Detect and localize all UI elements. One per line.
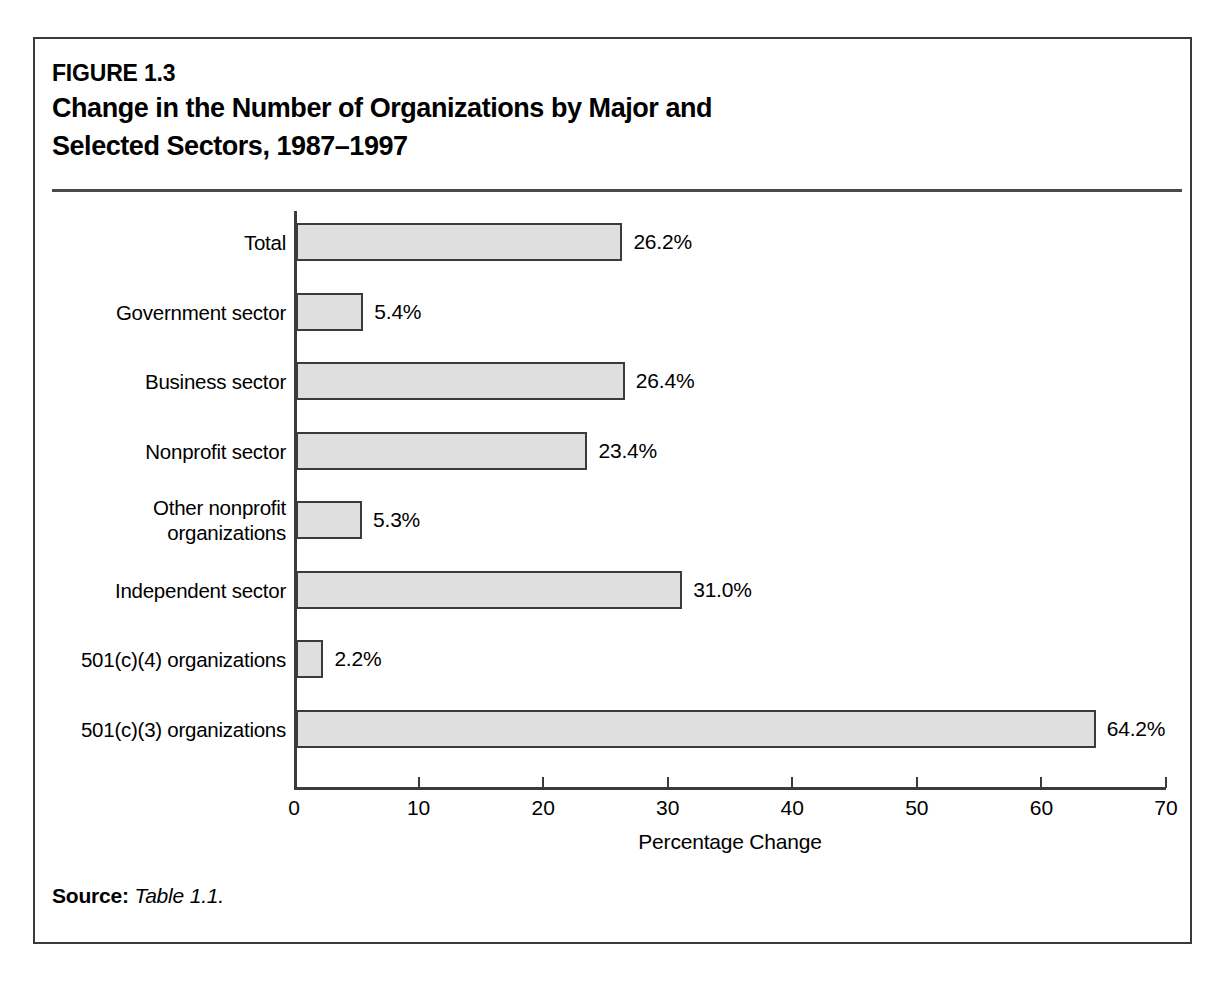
- bar-value-label: 26.4%: [636, 369, 695, 393]
- bar-value-label: 23.4%: [598, 439, 657, 463]
- bar: [296, 293, 363, 331]
- bar-value-label: 5.4%: [374, 300, 421, 324]
- bar-value-label: 5.3%: [373, 508, 420, 532]
- bar-row: Business sector26.4%: [35, 362, 1194, 400]
- bar-category-label: 501(c)(3) organizations: [0, 716, 286, 741]
- source-note: Source: Table 1.1.: [52, 884, 224, 908]
- x-axis-title: Percentage Change: [294, 830, 1166, 854]
- x-axis-line: [294, 787, 1166, 790]
- bar-value-label: 26.2%: [633, 230, 692, 254]
- bar-category-label: Business sector: [0, 369, 286, 394]
- bar-value-label: 2.2%: [334, 647, 381, 671]
- bar: [296, 501, 362, 539]
- x-axis-tick: [542, 777, 544, 788]
- bar-category-label: Government sector: [0, 299, 286, 324]
- figure-container: FIGURE 1.3 Change in the Number of Organ…: [33, 37, 1192, 944]
- bar: [296, 223, 622, 261]
- x-axis-tick-label: 40: [781, 796, 804, 820]
- x-axis-tick-label: 60: [1030, 796, 1053, 820]
- bar-row: Independent sector31.0%: [35, 571, 1194, 609]
- x-axis-tick: [791, 777, 793, 788]
- x-axis-tick: [1165, 777, 1167, 788]
- source-label: Source:: [52, 884, 129, 907]
- bar-category-label: Other nonprofit organizations: [0, 495, 286, 545]
- x-axis-tick: [916, 777, 918, 788]
- x-axis-tick: [418, 777, 420, 788]
- bar-value-label: 31.0%: [693, 578, 752, 602]
- bar-row: Government sector5.4%: [35, 293, 1194, 331]
- x-axis-tick-label: 20: [531, 796, 554, 820]
- bar-category-label: Independent sector: [0, 577, 286, 602]
- x-axis-tick-label: 10: [407, 796, 430, 820]
- bar-row: Total26.2%: [35, 223, 1194, 261]
- bar-row: 501(c)(4) organizations2.2%: [35, 640, 1194, 678]
- x-axis-tick: [667, 777, 669, 788]
- bar-row: Nonprofit sector23.4%: [35, 432, 1194, 470]
- bar-category-label: Total: [0, 230, 286, 255]
- x-axis-tick-label: 50: [905, 796, 928, 820]
- bar-category-label: 501(c)(4) organizations: [0, 647, 286, 672]
- bar: [296, 640, 323, 678]
- x-axis-tick-label: 0: [288, 796, 300, 820]
- x-axis-tick-label: 30: [656, 796, 679, 820]
- bar-row: Other nonprofit organizations5.3%: [35, 501, 1194, 539]
- x-axis-tick: [1040, 777, 1042, 788]
- x-axis-tick-label: 70: [1154, 796, 1177, 820]
- bar-chart-plot: 010203040506070 Total26.2%Government sec…: [35, 39, 1194, 946]
- bar: [296, 432, 587, 470]
- bar: [296, 571, 682, 609]
- source-value: Table 1.1.: [134, 884, 223, 907]
- bar: [296, 362, 625, 400]
- bar-value-label: 64.2%: [1107, 717, 1166, 741]
- bar-category-label: Nonprofit sector: [0, 438, 286, 463]
- bar: [296, 710, 1096, 748]
- bar-row: 501(c)(3) organizations64.2%: [35, 710, 1194, 748]
